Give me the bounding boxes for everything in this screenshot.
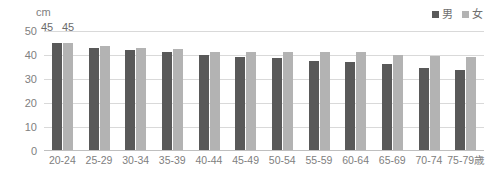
legend-item-male[interactable]: 男 [432,9,453,20]
bar-group-25-29 [81,31,118,150]
legend-label-female: 女 [472,9,483,20]
bar-chart: 男 女 cm 50 40 30 20 10 0 45 45 20-2425-29… [0,0,489,183]
x-tick-60-64: 60-64 [337,155,374,175]
x-axis: 20-2425-2930-3435-3940-4445-4950-5455-59… [44,155,484,175]
y-axis: 50 40 30 20 10 0 [0,0,40,183]
bar-group-65-69 [374,31,411,150]
x-tick-45-49: 45-49 [227,155,264,175]
bar-male-20-24[interactable] [52,43,62,150]
bar-female-75-79[interactable] [466,57,476,150]
x-tick-70-74: 70-74 [411,155,448,175]
bar-group-35-39 [154,31,191,150]
y-tick-30: 30 [0,74,37,85]
bar-group-40-44 [191,31,228,150]
bar-group-70-74 [411,31,448,150]
legend-label-male: 男 [442,9,453,20]
y-tick-10: 10 [0,122,37,133]
bar-female-35-39[interactable] [173,49,183,150]
x-tick-65-69: 65-69 [374,155,411,175]
y-tick-0: 0 [0,146,37,157]
bar-group-75-79 [447,31,484,150]
bar-female-50-54[interactable] [283,52,293,150]
x-tick-35-39: 35-39 [154,155,191,175]
bar-group-45-49 [227,31,264,150]
x-tick-25-29: 25-29 [81,155,118,175]
bar-male-75-79[interactable] [455,70,465,150]
bar-female-20-24[interactable] [63,43,73,150]
chart-legend: 男 女 [432,9,483,20]
bar-group-30-34 [117,31,154,150]
bar-group-50-54 [264,31,301,150]
bar-male-70-74[interactable] [419,68,429,150]
bar-male-40-44[interactable] [199,55,209,150]
bar-series-container [44,31,484,150]
bar-male-25-29[interactable] [89,48,99,150]
y-tick-20: 20 [0,98,37,109]
legend-swatch-male [432,11,439,18]
x-tick-40-44: 40-44 [191,155,228,175]
x-tick-55-59: 55-59 [301,155,338,175]
bar-female-65-69[interactable] [393,55,403,150]
x-tick-20-24: 20-24 [44,155,81,175]
x-tick-50-54: 50-54 [264,155,301,175]
plot-area [44,31,484,151]
bar-male-30-34[interactable] [125,50,135,150]
bar-female-70-74[interactable] [430,56,440,150]
x-tick-75-79: 75-79歳 [447,155,484,175]
bar-male-50-54[interactable] [272,58,282,150]
bar-female-60-64[interactable] [356,52,366,150]
bar-female-55-59[interactable] [320,52,330,150]
x-tick-30-34: 30-34 [117,155,154,175]
bar-group-20-24 [44,31,81,150]
gridline-0 [44,150,484,151]
data-label-female-20-24: 45 [62,22,74,33]
legend-swatch-female [462,11,469,18]
data-label-male-20-24: 45 [41,22,53,33]
legend-item-female[interactable]: 女 [462,9,483,20]
bar-male-35-39[interactable] [162,52,172,150]
bar-group-55-59 [301,31,338,150]
bar-male-60-64[interactable] [345,62,355,150]
bar-male-55-59[interactable] [309,61,319,150]
bar-female-25-29[interactable] [100,46,110,150]
bar-female-45-49[interactable] [246,52,256,150]
bar-group-60-64 [337,31,374,150]
y-tick-50: 50 [0,26,37,37]
bar-male-65-69[interactable] [382,64,392,150]
bar-female-30-34[interactable] [136,48,146,150]
bar-female-40-44[interactable] [210,52,220,150]
bar-male-45-49[interactable] [235,57,245,150]
y-tick-40: 40 [0,50,37,61]
